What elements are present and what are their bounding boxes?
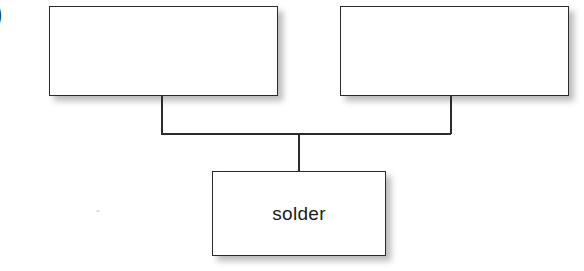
block-left[interactable] <box>49 6 278 96</box>
figure-label-fragment: ) <box>0 0 11 28</box>
diagram-canvas: ) solder <box>0 0 584 271</box>
connector-center-drop <box>298 133 300 172</box>
block-right[interactable] <box>340 6 569 96</box>
block-solder[interactable]: solder <box>212 171 386 256</box>
connector-cross-bar <box>161 133 451 135</box>
block-solder-label: solder <box>272 203 326 225</box>
scan-speckle <box>96 210 100 212</box>
connector-right-drop <box>450 95 452 134</box>
connector-left-drop <box>161 95 163 134</box>
